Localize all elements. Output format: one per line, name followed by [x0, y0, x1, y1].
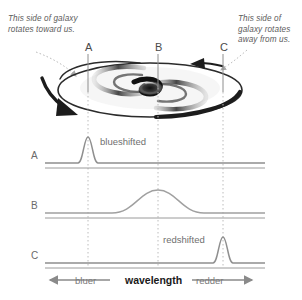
panel-label-a: A — [31, 150, 38, 161]
spectrum-panel-b — [45, 190, 265, 218]
axis-label-wavelength: wavelength — [125, 274, 182, 286]
galaxy-spiral — [80, 67, 220, 110]
panel-label-b: B — [31, 200, 38, 211]
panel-label-c: C — [31, 250, 38, 261]
blueshifted-label: blueshifted — [100, 136, 146, 147]
spectrum-panel-c — [45, 237, 265, 268]
dotted-leader-arrow-left-icon — [36, 52, 76, 76]
redshifted-label: redshifted — [163, 234, 205, 245]
axis-label-redder: redder — [196, 275, 223, 286]
dotted-leader-arrow-right-icon — [221, 50, 247, 70]
position-label-c: C — [220, 41, 228, 53]
annotation-right-text: This side of galaxy rotates away from us… — [238, 14, 302, 46]
position-label-a: A — [85, 41, 92, 53]
rotation-arrow-right-icon — [190, 58, 222, 69]
axis-label-bluer: bluer — [75, 275, 96, 286]
annotation-left-text: This side of galaxy rotates toward us. — [8, 14, 86, 35]
spectrum-panel-a — [45, 137, 265, 168]
position-label-b: B — [155, 41, 162, 53]
galaxy-doppler-figure: This side of galaxy rotates toward us. T… — [0, 0, 302, 300]
